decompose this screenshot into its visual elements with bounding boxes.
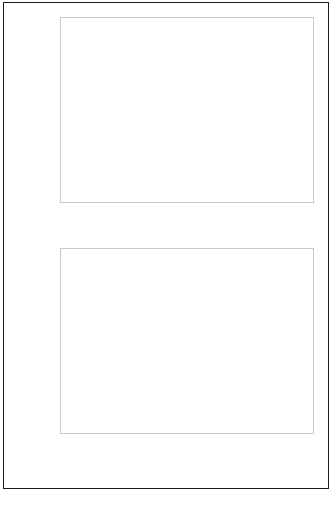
figure-container [0, 0, 335, 506]
plot-area-top [60, 17, 314, 203]
chart-panel-near-va [60, 248, 314, 434]
chart-panel-distance-va [60, 17, 314, 203]
plot-area-bottom [60, 248, 314, 434]
